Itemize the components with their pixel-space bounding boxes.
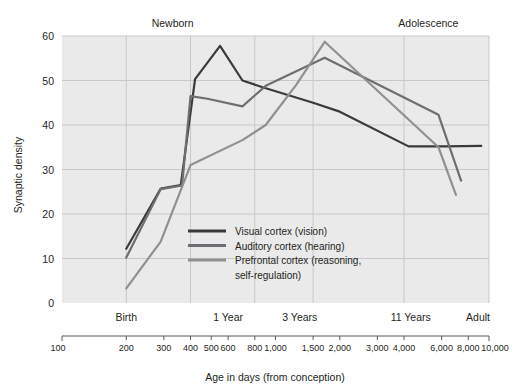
day-tick-label: 600 [221,343,236,353]
legend-label-3[interactable]: Prefrontal cortex (reasoning, [235,255,361,266]
chart-canvas: 0102030405060 NewbornAdolescence Birth1 … [0,0,517,388]
stage-label: 1 Year [213,311,243,323]
y-tick-label: 0 [48,297,54,309]
y-tick-label: 20 [42,208,54,220]
y-tick-label: 30 [42,164,54,176]
stage-label: Adult [466,311,490,323]
day-tick-label: 10,000 [481,343,509,353]
day-tick-label: 100 [50,343,65,353]
legend-label-2[interactable]: Auditory cortex (hearing) [235,241,345,252]
day-tick-label: 1,500 [302,343,325,353]
stage-label: 11 Years [391,311,431,323]
day-tick-label: 500 [204,343,219,353]
day-tick-label: 4,000 [393,343,416,353]
legend-label-1[interactable]: Visual cortex (vision) [235,226,327,237]
day-tick-label: 200 [119,343,134,353]
y-tick-label: 10 [42,253,54,265]
day-tick-label: 400 [183,343,198,353]
y-tick-label: 60 [42,30,54,42]
day-tick-label: 2,000 [329,343,352,353]
y-axis-title: Synaptic density [12,136,24,213]
y-tick-label: 40 [42,119,54,131]
era-label: Newborn [152,17,194,29]
stage-label: Birth [115,311,137,323]
day-tick-label: 300 [156,343,171,353]
day-tick-label: 800 [247,343,262,353]
x-axis-title: Age in days (from conception) [205,371,344,383]
y-tick-label: 50 [42,75,54,87]
day-tick-label: 8,000 [457,343,480,353]
day-tick-label: 3,000 [366,343,389,353]
synaptic-density-chart: 0102030405060 NewbornAdolescence Birth1 … [0,0,517,388]
era-label: Adolescence [398,17,458,29]
day-tick-label: 6,000 [430,343,453,353]
stage-label: 3 Years [282,311,317,323]
legend-label-3-line2[interactable]: self-regulation) [235,270,301,281]
day-tick-label: 1,000 [264,343,287,353]
